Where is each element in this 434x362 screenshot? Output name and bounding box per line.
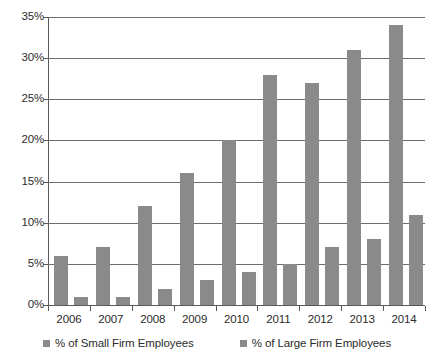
bar-small-firm-2009 (180, 173, 194, 305)
bar-small-firm-2013 (347, 50, 361, 305)
x-axis-label-2014: 2014 (381, 313, 427, 326)
bar-group-2011 (263, 17, 297, 305)
plot-area (48, 17, 425, 305)
legend-entry-small-firm[interactable]: % of Small Firm Employees (43, 337, 194, 350)
bar-large-firm-2006 (74, 297, 88, 305)
x-axis-tick (90, 306, 91, 311)
bar-large-firm-2007 (116, 297, 130, 305)
bar-large-firm-2009 (200, 280, 214, 305)
y-axis-tick-label: 5% (0, 258, 44, 270)
legend-swatch-icon (43, 340, 50, 347)
x-axis-tick (383, 306, 384, 311)
x-axis-label-2006: 2006 (46, 313, 92, 326)
bar-large-firm-2012 (325, 247, 339, 305)
x-axis-tick (216, 306, 217, 311)
bar-large-firm-2011 (283, 264, 297, 305)
bar-group-2013 (347, 17, 381, 305)
y-axis-tick-label: 0% (0, 299, 44, 311)
bar-large-firm-2014 (409, 215, 423, 306)
y-axis-labels: 0%5%10%15%20%25%30%35% (0, 0, 44, 362)
bar-small-firm-2012 (305, 83, 319, 305)
bar-group-2007 (96, 17, 130, 305)
bar-group-2006 (54, 17, 88, 305)
bar-group-2009 (180, 17, 214, 305)
bar-small-firm-2006 (54, 256, 68, 305)
bars (48, 17, 425, 305)
bar-small-firm-2014 (389, 25, 403, 305)
y-axis-tick-label: 35% (0, 11, 44, 23)
x-axis-label-2011: 2011 (255, 313, 301, 326)
gridline-0 (48, 305, 425, 306)
bar-small-firm-2007 (96, 247, 110, 305)
x-axis-tick (341, 306, 342, 311)
bar-group-2010 (222, 17, 256, 305)
x-axis-tick (174, 306, 175, 311)
bar-group-2008 (138, 17, 172, 305)
x-axis-label-2012: 2012 (297, 313, 343, 326)
bar-chart: 0%5%10%15%20%25%30%35% 20062007200820092… (0, 0, 434, 362)
x-axis-tick (299, 306, 300, 311)
bar-large-firm-2008 (158, 289, 172, 305)
y-axis-tick-label: 30% (0, 52, 44, 64)
bar-small-firm-2011 (263, 75, 277, 305)
y-axis-tick-label: 25% (0, 93, 44, 105)
bar-large-firm-2013 (367, 239, 381, 305)
x-axis-tick (48, 306, 49, 311)
x-axis-label-2007: 2007 (88, 313, 134, 326)
y-axis-tick-label: 15% (0, 176, 44, 188)
x-axis-tick (132, 306, 133, 311)
bar-large-firm-2010 (242, 272, 256, 305)
x-axis-label-2013: 2013 (339, 313, 385, 326)
bar-group-2012 (305, 17, 339, 305)
y-axis-tick-label: 20% (0, 134, 44, 146)
x-axis-label-2009: 2009 (172, 313, 218, 326)
legend-entry-large-firm[interactable]: % of Large Firm Employees (240, 337, 391, 350)
bar-small-firm-2010 (222, 140, 236, 305)
y-axis-tick-label: 10% (0, 217, 44, 229)
chart-legend: % of Small Firm Employees% of Large Firm… (0, 337, 434, 350)
legend-label: % of Large Firm Employees (252, 337, 391, 350)
x-axis-label-2010: 2010 (214, 313, 260, 326)
legend-label: % of Small Firm Employees (55, 337, 194, 350)
legend-swatch-icon (240, 340, 247, 347)
x-axis-tick (425, 306, 426, 311)
x-axis-tick (257, 306, 258, 311)
bar-group-2014 (389, 17, 423, 305)
bar-small-firm-2008 (138, 206, 152, 305)
x-axis-label-2008: 2008 (130, 313, 176, 326)
